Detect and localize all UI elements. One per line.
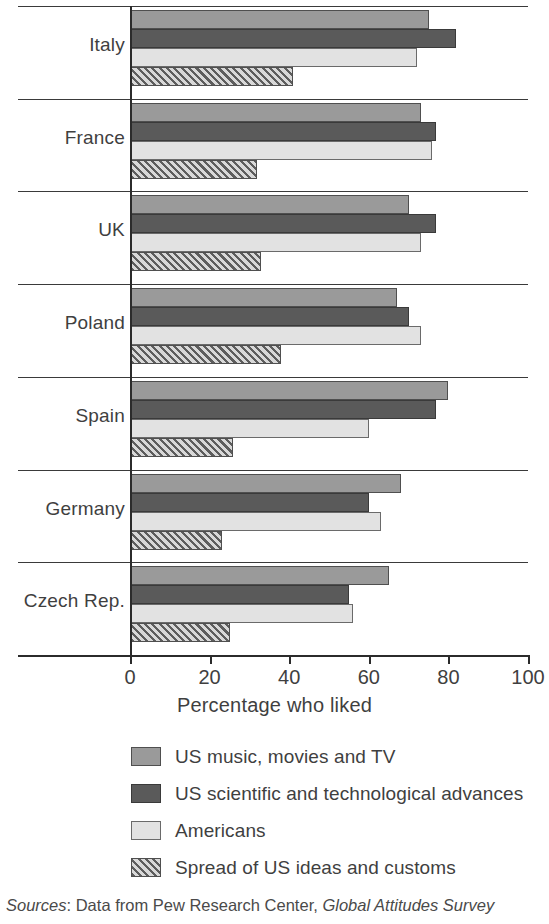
bar <box>130 326 421 345</box>
source-note-publication: Global Attitudes Survey <box>322 896 494 914</box>
gridline <box>18 191 528 192</box>
legend-item[interactable]: Americans <box>131 812 549 849</box>
legend-item[interactable]: US music, movies and TV <box>131 738 549 775</box>
x-tick <box>210 655 212 664</box>
x-tick-label: 100 <box>511 666 544 689</box>
bar <box>130 48 417 67</box>
bar <box>130 214 436 233</box>
category-label: Poland <box>65 312 125 334</box>
x-tick-label: 0 <box>124 666 135 689</box>
bar <box>130 474 401 493</box>
legend-swatch <box>131 747 161 766</box>
bar <box>130 103 421 122</box>
category-label: Spain <box>75 405 125 427</box>
bar <box>130 400 436 419</box>
legend-label: Americans <box>175 820 266 842</box>
bar <box>130 623 230 642</box>
bar <box>130 252 261 271</box>
category-label: Italy <box>89 34 125 56</box>
bar <box>130 10 429 29</box>
bar <box>130 566 389 585</box>
x-axis-title: Percentage who liked <box>0 694 549 717</box>
source-note-label: Sources <box>6 896 67 914</box>
x-tick-label: 80 <box>437 666 459 689</box>
bar <box>130 29 456 48</box>
plot-area: ItalyFranceUKPolandSpainGermanyCzech Rep… <box>0 0 549 660</box>
bar <box>130 141 432 160</box>
x-tick <box>130 655 132 664</box>
legend-item[interactable]: Spread of US ideas and customs <box>131 849 549 886</box>
x-tick <box>448 655 450 664</box>
bar-chart: ItalyFranceUKPolandSpainGermanyCzech Rep… <box>0 0 549 924</box>
bar <box>130 512 381 531</box>
bar <box>130 531 222 550</box>
x-tick <box>289 655 291 664</box>
gridline <box>18 562 528 563</box>
gridline <box>18 377 528 378</box>
x-axis-line <box>18 655 528 657</box>
bar <box>130 307 409 326</box>
source-note: Sources: Data from Pew Research Center, … <box>6 896 494 915</box>
bar <box>130 438 233 457</box>
legend-swatch <box>131 784 161 803</box>
bar <box>130 195 409 214</box>
legend-label: US music, movies and TV <box>175 746 396 768</box>
source-note-middle: : Data from Pew Research Center, <box>67 896 323 914</box>
bar <box>130 288 397 307</box>
bar <box>130 419 369 438</box>
bar <box>130 233 421 252</box>
gridline <box>18 470 528 471</box>
bar <box>130 585 349 604</box>
legend-label: US scientific and technological advances <box>175 783 523 805</box>
bar <box>130 345 281 364</box>
bar <box>130 381 448 400</box>
gridline <box>18 284 528 285</box>
x-tick-label: 60 <box>358 666 380 689</box>
bar <box>130 160 257 179</box>
bar <box>130 67 293 86</box>
gridline <box>18 99 528 100</box>
legend-swatch <box>131 858 161 877</box>
legend: US music, movies and TVUS scientific and… <box>131 738 549 886</box>
gridline <box>18 6 528 7</box>
x-tick <box>369 655 371 664</box>
x-tick-label: 20 <box>198 666 220 689</box>
bar <box>130 122 436 141</box>
category-label: Germany <box>45 498 125 520</box>
bar <box>130 493 369 512</box>
category-label: France <box>65 127 125 149</box>
category-label: UK <box>98 219 125 241</box>
x-tick-label: 40 <box>278 666 300 689</box>
legend-label: Spread of US ideas and customs <box>175 857 456 879</box>
legend-swatch <box>131 821 161 840</box>
x-tick <box>528 655 530 664</box>
category-label: Czech Rep. <box>24 590 125 612</box>
bar <box>130 604 353 623</box>
legend-item[interactable]: US scientific and technological advances <box>131 775 549 812</box>
y-axis-line <box>130 6 132 656</box>
